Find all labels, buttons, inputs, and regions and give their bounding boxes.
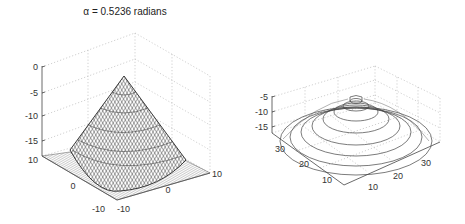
left-y-tick-10: 10 (28, 155, 38, 165)
right-z-tick-0: -5 (260, 92, 268, 102)
left-x-tick-0: 0 (165, 185, 170, 195)
right-contour-plot: -5 -10 -15 30 20 10 10 20 30 (255, 66, 440, 192)
left-z-tick-1: -5 (30, 88, 38, 98)
left-surface-mesh (42, 76, 210, 200)
left-z-tick-0: 0 (33, 62, 38, 72)
left-y-tick-0: 0 (70, 181, 75, 191)
right-y-tick-30: 30 (275, 144, 285, 154)
left-surface-plot: 0 -5 -10 -15 10 0 -10 -10 0 10 (25, 33, 222, 214)
right-z-axis (272, 96, 275, 133)
right-z-tick-1: -10 (255, 107, 268, 117)
right-y-tick-10: 10 (322, 175, 332, 185)
right-base-axes (272, 133, 440, 185)
left-z-axis (42, 66, 45, 156)
right-x-tick-10: 10 (368, 182, 378, 192)
figure: α = 0.5236 radians (0, 0, 465, 224)
left-z-tick-3: -15 (25, 136, 38, 146)
left-y-tick-neg10: -10 (92, 204, 105, 214)
right-z-tick-2: -15 (255, 122, 268, 132)
right-x-tick-20: 20 (393, 171, 403, 181)
left-z-tick-2: -10 (25, 111, 38, 121)
left-x-tick-neg10: -10 (117, 204, 130, 214)
left-x-tick-10: 10 (212, 169, 222, 179)
plots-canvas: 0 -5 -10 -15 10 0 -10 -10 0 10 (0, 0, 465, 224)
right-x-tick-30: 30 (421, 158, 431, 168)
